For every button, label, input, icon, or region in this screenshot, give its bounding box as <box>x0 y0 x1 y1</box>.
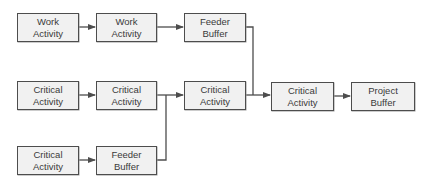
node-work-activity-1: Work Activity <box>17 13 79 42</box>
node-label: Project <box>368 85 398 97</box>
node-feeder-buffer-2: Feeder Buffer <box>96 146 157 175</box>
critical-chain-diagram: Work Activity Work Activity Feeder Buffe… <box>0 0 427 189</box>
node-label: Critical <box>33 149 62 161</box>
node-label: Critical <box>200 84 229 96</box>
node-label: Activity <box>111 28 141 40</box>
node-label: Activity <box>287 97 317 109</box>
node-label: Critical <box>112 84 141 96</box>
node-label: Activity <box>33 161 63 173</box>
line-feeder2-up <box>157 95 166 160</box>
line-feeder1-down <box>246 27 253 95</box>
node-label: Work <box>37 16 59 28</box>
node-critical-activity-2: Critical Activity <box>96 81 157 110</box>
node-label: Buffer <box>114 161 139 173</box>
node-critical-activity-1: Critical Activity <box>17 81 79 110</box>
node-label: Work <box>116 16 138 28</box>
node-label: Activity <box>200 96 230 108</box>
node-feeder-buffer-1: Feeder Buffer <box>184 13 246 42</box>
node-label: Critical <box>33 84 62 96</box>
node-label: Activity <box>111 96 141 108</box>
node-label: Buffer <box>370 97 395 109</box>
node-label: Critical <box>288 85 317 97</box>
node-label: Feeder <box>111 149 141 161</box>
node-critical-activity-4: Critical Activity <box>271 82 334 111</box>
node-label: Activity <box>33 96 63 108</box>
node-critical-activity-5: Critical Activity <box>17 146 79 175</box>
node-label: Activity <box>33 28 63 40</box>
node-project-buffer: Project Buffer <box>351 82 415 111</box>
node-critical-activity-3: Critical Activity <box>184 81 246 110</box>
node-label: Buffer <box>202 28 227 40</box>
node-label: Feeder <box>200 16 230 28</box>
node-work-activity-2: Work Activity <box>96 13 157 42</box>
